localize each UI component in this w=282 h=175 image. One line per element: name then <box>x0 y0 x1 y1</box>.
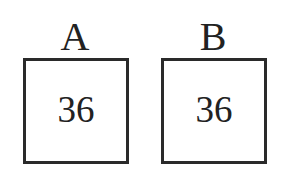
box-a-label: A <box>22 17 128 57</box>
box-a: 36 <box>23 58 129 164</box>
box-a-value: 36 <box>58 91 95 128</box>
box-b-value: 36 <box>196 91 233 128</box>
box-b: 36 <box>161 58 267 164</box>
box-b-label: B <box>160 17 266 57</box>
